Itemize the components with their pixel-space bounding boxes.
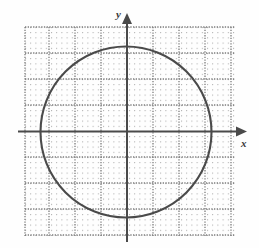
y-axis-arrowhead — [122, 13, 132, 24]
x-axis-arrowhead — [236, 127, 247, 137]
figure-root: y x — [0, 0, 259, 248]
y-axis-label: y — [116, 9, 121, 20]
coordinate-plot — [0, 0, 259, 248]
x-axis-label: x — [241, 138, 247, 149]
